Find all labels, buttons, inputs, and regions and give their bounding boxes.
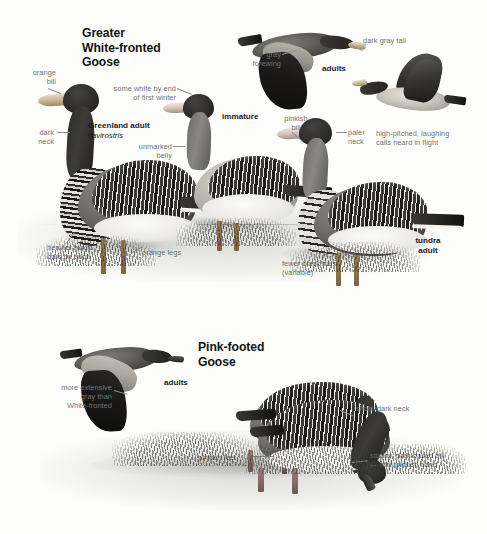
leader-unmarked-belly [173, 146, 185, 147]
title-line-1: Greater [82, 26, 125, 40]
grass-lower-right [356, 444, 466, 474]
title-line-3: Goose [82, 55, 120, 69]
title-line-2: Goose [198, 355, 236, 369]
bird-flying-adult-right [352, 52, 472, 132]
grass-upper-right [290, 242, 420, 272]
label-pinkish-bill: pinkish bill [274, 114, 318, 132]
label-high-pitched-calls: high-pitched, laughing calls heard in fl… [376, 129, 486, 147]
title-line-1: Pink-footed [198, 340, 264, 354]
label-some-white: some white by end of first winter [108, 84, 176, 102]
label-short-dark-neck: short, dark neck [356, 404, 440, 413]
species-title-pink-footed: Pink-footedGoose [198, 340, 264, 369]
label-unmarked-belly: unmarked belly [122, 142, 172, 160]
label-greenland-sciname: flavirostris [88, 131, 123, 141]
label-greenland-adult: Greenland adult [88, 121, 150, 131]
label-gray-forewing: gray forewing [236, 50, 281, 68]
label-immature: immature [222, 112, 258, 122]
neck-pale [186, 112, 212, 171]
grass-lower-left [112, 432, 262, 466]
label-dark-gray-tail: dark gray tail [363, 36, 443, 45]
bill [168, 355, 184, 362]
leader-paler-neck [336, 132, 347, 133]
label-dark-neck: dark neck [12, 128, 54, 146]
label-more-extensive-gray: more extensive gray than White-fronted [26, 383, 112, 411]
grass-upper-left [36, 236, 156, 266]
label-adults-bottom: adults [164, 378, 188, 388]
bird-flying-adult-left [236, 26, 366, 118]
field-guide-plate: GreaterWhite-frontedGoose orange bill da… [0, 0, 487, 534]
species-title-greater-white-fronted: GreaterWhite-frontedGoose [82, 26, 161, 70]
label-orange-bill: orange bill [14, 68, 56, 86]
title-line-2: White-fronted [82, 41, 161, 55]
leader-dark-neck [57, 132, 70, 133]
grass-upper-center [176, 218, 296, 246]
label-adults-top: adults [322, 64, 346, 74]
